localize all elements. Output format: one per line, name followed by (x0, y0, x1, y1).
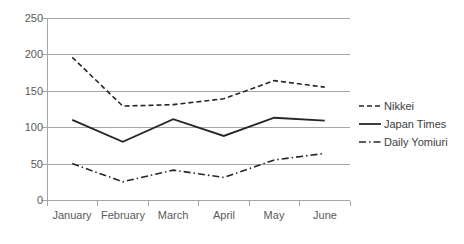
legend-label-daily-yomiuri: Daily Yomiuri (384, 136, 448, 148)
series-line-japan-times (72, 118, 325, 142)
series-line-daily-yomiuri (72, 153, 325, 181)
dashed-line-swatch-icon (359, 101, 381, 111)
line-chart: 250 200 150 100 50 0 January February Ma… (0, 0, 464, 244)
legend-entry-daily-yomiuri: Daily Yomiuri (359, 133, 464, 151)
solid-line-swatch-icon (359, 119, 381, 129)
series-line-nikkei (72, 57, 325, 106)
legend-entry-japan-times: Japan Times (359, 115, 464, 133)
legend-entry-nikkei: Nikkei (359, 97, 464, 115)
chart-legend: Nikkei Japan Times Daily Yomiuri (359, 97, 464, 151)
dash-dot-line-swatch-icon (359, 137, 381, 147)
legend-label-nikkei: Nikkei (384, 100, 414, 112)
legend-label-japan-times: Japan Times (384, 118, 446, 130)
